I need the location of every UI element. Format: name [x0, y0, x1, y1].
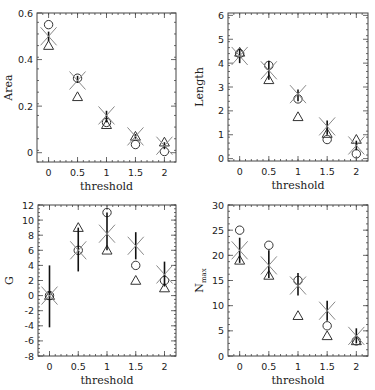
- triangle-marker: [73, 92, 83, 101]
- plot-frame: [228, 13, 368, 161]
- x-tick-label: 0.5: [70, 167, 85, 178]
- circle-marker: [323, 322, 331, 330]
- triangle-marker: [131, 276, 141, 285]
- x-tick-label: 1: [103, 167, 109, 178]
- y-tick-label: 2: [28, 275, 34, 286]
- x-tick-label: 0: [237, 166, 243, 177]
- x-tick-label: 2: [161, 361, 167, 372]
- triangle-marker: [44, 41, 54, 50]
- panel-bottom-right: 00.511.52051015202530thresholdNmax: [193, 200, 368, 388]
- y-tick-label: 0: [27, 147, 33, 158]
- circle-marker: [323, 135, 331, 143]
- y-tick-label: -8: [25, 351, 34, 362]
- y-tick-label: 20: [212, 250, 224, 261]
- y-tick-label: 6: [28, 245, 34, 256]
- y-tick-label: 1: [218, 129, 224, 140]
- y-tick-label: 0: [28, 290, 34, 301]
- x-tick-label: 0: [237, 361, 243, 372]
- x-tick-label: 1.5: [320, 361, 335, 372]
- y-tick-label: 8: [28, 230, 34, 241]
- x-tick-label: 1: [295, 361, 301, 372]
- plot-frame: [37, 13, 176, 162]
- y-tick-label: 0.2: [18, 101, 33, 112]
- y-axis-label: Area: [2, 74, 15, 102]
- y-axis-label: Length: [193, 67, 206, 106]
- y-tick-label: -2: [25, 305, 34, 316]
- x-tick-label: 2: [353, 361, 359, 372]
- circle-marker: [131, 140, 139, 148]
- y-tick-label: 15: [212, 275, 224, 286]
- x-tick-label: 1: [295, 166, 301, 177]
- triangle-marker: [322, 331, 332, 340]
- x-axis-label: threshold: [80, 374, 133, 387]
- y-tick-label: 0.4: [18, 54, 33, 65]
- x-axis-label: threshold: [271, 179, 324, 192]
- y-tick-label: 12: [22, 200, 34, 211]
- y-tick-label: 0: [218, 153, 224, 164]
- x-tick-label: 2: [353, 166, 359, 177]
- triangle-marker: [293, 311, 303, 320]
- x-tick-label: 1: [104, 361, 110, 372]
- panel-top-left: 00.511.5200.20.40.6thresholdArea: [2, 8, 176, 194]
- x-tick-label: 1.5: [320, 166, 335, 177]
- y-tick-label: -4: [25, 320, 34, 331]
- y-tick-label: 6: [218, 10, 224, 21]
- x-tick-label: 2: [161, 167, 167, 178]
- y-tick-label: 30: [212, 200, 224, 211]
- y-tick-label: -6: [25, 335, 34, 346]
- circle-marker: [235, 226, 243, 234]
- x-tick-label: 1.5: [128, 167, 143, 178]
- triangle-marker: [293, 112, 303, 121]
- x-tick-label: 0.5: [261, 361, 276, 372]
- panel-top-right: 00.511.520123456thresholdLength: [193, 10, 368, 192]
- x-tick-label: 0.5: [261, 166, 276, 177]
- x-tick-label: 0.5: [71, 361, 86, 372]
- x-axis-label: threshold: [80, 180, 133, 193]
- y-tick-label: 4: [218, 58, 224, 69]
- circle-marker: [265, 241, 273, 249]
- panel-bottom-left: 00.511.52-8-6-4-2024681012thresholdG: [3, 200, 176, 388]
- circle-marker: [132, 261, 140, 269]
- y-tick-label: 3: [218, 82, 224, 93]
- y-axis-label: G: [3, 276, 16, 285]
- y-tick-label: 4: [28, 260, 34, 271]
- x-axis-label: threshold: [271, 374, 324, 387]
- x-tick-label: 1.5: [128, 361, 143, 372]
- y-tick-label: 10: [22, 215, 34, 226]
- y-tick-label: 25: [212, 225, 224, 236]
- chart-grid: 00.511.5200.20.40.6thresholdArea00.511.5…: [0, 0, 375, 390]
- y-tick-label: 0.6: [18, 8, 33, 19]
- x-tick-label: 0: [46, 361, 52, 372]
- y-tick-label: 0: [218, 351, 224, 362]
- y-axis-label: Nmax: [193, 268, 208, 292]
- y-tick-label: 5: [218, 34, 224, 45]
- x-tick-label: 0: [46, 167, 52, 178]
- y-tick-label: 2: [218, 105, 224, 116]
- y-tick-label: 10: [212, 300, 224, 311]
- circle-marker: [44, 20, 52, 28]
- y-tick-label: 5: [218, 325, 224, 336]
